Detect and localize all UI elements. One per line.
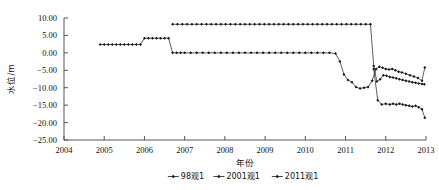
data-point-marker xyxy=(384,67,387,70)
data-point-marker xyxy=(248,23,251,26)
data-point-marker xyxy=(298,51,301,54)
data-point-marker xyxy=(401,103,404,106)
data-point-marker xyxy=(195,23,198,26)
data-point-marker xyxy=(301,23,304,26)
data-point-marker xyxy=(311,23,314,26)
x-tick-label: 2008 xyxy=(216,145,233,155)
data-point-marker xyxy=(190,23,193,26)
legend-item-1[interactable]: 98观1 xyxy=(168,172,204,181)
data-point-marker xyxy=(372,65,375,68)
data-point-marker xyxy=(316,23,319,26)
data-point-marker xyxy=(195,51,198,54)
data-point-marker xyxy=(420,82,423,85)
data-point-marker xyxy=(163,37,166,40)
data-point-marker xyxy=(179,51,182,54)
data-point-marker xyxy=(119,43,122,46)
data-point-marker xyxy=(181,23,184,26)
data-point-marker xyxy=(363,86,366,89)
data-point-marker xyxy=(147,37,150,40)
data-point-marker xyxy=(401,79,404,82)
data-point-marker xyxy=(398,78,401,81)
data-point-marker xyxy=(322,51,325,54)
data-point-marker xyxy=(397,70,400,73)
data-point-marker xyxy=(330,23,333,26)
data-point-marker xyxy=(423,116,426,119)
chart-container: 10.005.000.00−5.00−10.00−15.00−20.00−25.… xyxy=(0,0,439,190)
data-point-marker xyxy=(175,51,178,54)
data-point-marker xyxy=(205,23,208,26)
data-point-marker xyxy=(186,23,189,26)
data-point-marker xyxy=(398,102,401,105)
data-point-marker xyxy=(207,51,210,54)
data-point-marker xyxy=(350,23,353,26)
data-point-marker xyxy=(328,51,331,54)
data-point-marker xyxy=(404,72,407,75)
data-point-marker xyxy=(107,43,110,46)
data-point-marker xyxy=(394,69,397,72)
data-point-marker xyxy=(123,43,126,46)
data-point-marker xyxy=(234,23,237,26)
x-tick-label: 2007 xyxy=(176,145,193,155)
data-point-marker xyxy=(321,23,324,26)
data-point-marker xyxy=(213,51,216,54)
data-point-marker xyxy=(345,23,348,26)
data-point-marker xyxy=(127,43,130,46)
legend-item-3[interactable]: 2011观1 xyxy=(272,172,318,181)
data-point-marker xyxy=(414,81,417,84)
data-point-marker xyxy=(115,43,118,46)
data-point-marker xyxy=(417,82,420,85)
data-point-marker xyxy=(250,51,253,54)
legend-marker xyxy=(172,175,176,179)
x-tick-label: 2005 xyxy=(96,145,113,155)
x-axis-title: 年份 xyxy=(236,158,254,168)
x-tick-label: 2004 xyxy=(56,145,74,155)
legend-item-2[interactable]: 2001观1 xyxy=(213,172,259,181)
data-point-marker xyxy=(103,43,106,46)
data-point-marker xyxy=(385,74,388,77)
data-point-marker xyxy=(408,80,411,83)
data-point-marker xyxy=(411,81,414,84)
data-point-marker xyxy=(263,23,266,26)
data-point-marker xyxy=(176,23,179,26)
data-point-marker xyxy=(219,51,222,54)
data-point-marker xyxy=(359,87,362,90)
data-point-marker xyxy=(359,23,362,26)
data-point-marker xyxy=(210,23,213,26)
data-point-marker xyxy=(282,23,285,26)
data-point-marker xyxy=(224,23,227,26)
legend-marker xyxy=(217,175,221,179)
data-point-marker xyxy=(244,23,247,26)
data-point-marker xyxy=(355,23,358,26)
data-point-marker xyxy=(387,68,390,71)
data-point-marker xyxy=(412,75,415,78)
x-tick-label: 2010 xyxy=(297,145,314,155)
line-chart: 10.005.000.00−5.00−10.00−15.00−20.00−25.… xyxy=(0,0,439,190)
data-point-marker xyxy=(384,102,387,105)
data-point-marker xyxy=(423,66,426,69)
data-point-marker xyxy=(215,23,218,26)
data-point-marker xyxy=(423,83,426,86)
legend-label: 2001观1 xyxy=(226,172,259,181)
data-point-marker xyxy=(292,51,295,54)
data-point-marker xyxy=(400,71,403,74)
x-tick-label: 2013 xyxy=(418,145,435,155)
y-tick-label: −10.00 xyxy=(33,83,57,93)
data-point-marker xyxy=(340,23,343,26)
y-tick-label: −5.00 xyxy=(37,65,57,75)
data-point-marker xyxy=(287,23,290,26)
chart-legend: 98观12001观12011观1 xyxy=(168,172,318,181)
data-point-marker xyxy=(272,23,275,26)
data-point-marker xyxy=(239,23,242,26)
data-point-marker xyxy=(155,37,158,40)
data-point-marker xyxy=(297,23,300,26)
data-point-marker xyxy=(274,51,277,54)
data-point-marker xyxy=(111,43,114,46)
data-point-marker xyxy=(395,77,398,80)
data-point-marker xyxy=(388,103,391,106)
data-point-marker xyxy=(256,51,259,54)
data-point-marker xyxy=(171,23,174,26)
data-point-marker xyxy=(253,23,256,26)
y-tick-label: −25.00 xyxy=(33,135,57,145)
data-point-marker xyxy=(369,23,372,26)
data-point-marker xyxy=(395,103,398,106)
